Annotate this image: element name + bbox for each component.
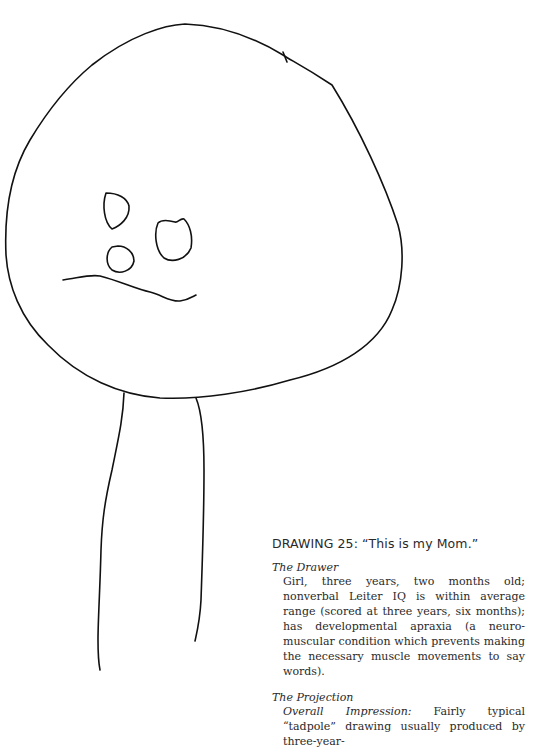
mouth [63,275,196,301]
section-heading-projection: The Projection [272,691,525,704]
section-text-projection: Overall Impression: Fairly typical “tadp… [283,704,525,749]
figure-caption: DRAWING 25: “This is my Mom.” The Drawer… [272,536,525,751]
left-leg [98,393,124,670]
section-text-drawer: Girl, three years, two months old; nonve… [283,574,525,679]
overall-impression-label: Overall Impression: [283,705,411,718]
left-eye [104,193,129,229]
head-outline [6,24,402,398]
nose [107,246,134,272]
right-eye [156,219,192,260]
figure-title: DRAWING 25: “This is my Mom.” [272,536,525,551]
section-heading-drawer: The Drawer [272,561,525,574]
right-leg [195,398,204,641]
